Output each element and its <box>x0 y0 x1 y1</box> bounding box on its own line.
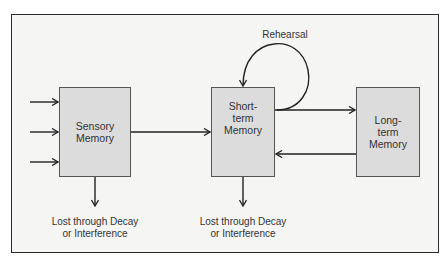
long-term-label-line2: term <box>369 126 407 138</box>
long-term-label-line3: Memory <box>369 138 407 150</box>
sensory-loss-label: Lost through Decay or Interference <box>35 216 155 240</box>
sensory-loss-line1: Lost through Decay <box>35 216 155 228</box>
short-term-memory-box: Short- term Memory <box>211 87 275 177</box>
short-term-loss-line2: or Interference <box>183 228 303 240</box>
short-term-label-line3: Memory <box>224 124 262 136</box>
sensory-loss-line2: or Interference <box>35 228 155 240</box>
long-term-label-line1: Long- <box>369 114 407 126</box>
sensory-label-line1: Sensory <box>76 120 115 132</box>
short-term-loss-label: Lost through Decay or Interference <box>183 216 303 240</box>
long-term-memory-box: Long- term Memory <box>356 87 420 177</box>
short-term-label-line2: term <box>224 112 262 124</box>
rehearsal-label: Rehearsal <box>250 29 320 41</box>
sensory-memory-box: Sensory Memory <box>59 87 131 177</box>
short-term-loss-line1: Lost through Decay <box>183 216 303 228</box>
short-term-label-line1: Short- <box>224 100 262 112</box>
sensory-label-line2: Memory <box>76 132 115 144</box>
